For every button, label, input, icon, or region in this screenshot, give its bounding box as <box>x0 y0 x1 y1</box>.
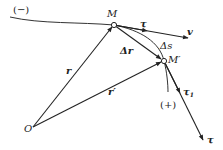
label-tau-end: τ <box>207 134 214 145</box>
vector-r <box>33 27 112 127</box>
label-delta-r: Δr <box>119 45 134 56</box>
diagram-svg: (−) (+) M M′ O r r′ Δr Δs τ v τ1 τ <box>0 0 223 150</box>
label-v: v <box>187 26 193 37</box>
label-r-prime: r′ <box>108 86 116 97</box>
point-m-prime <box>161 58 166 63</box>
label-negative-direction: (−) <box>13 4 29 15</box>
vector-tau1 <box>164 61 179 91</box>
trajectory-diagram: (−) (+) M M′ O r r′ Δr Δs τ v τ1 τ <box>0 0 223 150</box>
label-r: r <box>66 65 72 76</box>
label-delta-s: Δs <box>159 40 172 51</box>
vector-r-prime <box>33 62 161 127</box>
label-positive-direction: (+) <box>160 99 176 110</box>
label-tau1: τ1 <box>183 86 194 98</box>
label-point-m-prime: M′ <box>167 54 181 65</box>
label-point-m: M <box>106 8 118 19</box>
point-m <box>111 22 116 27</box>
label-tau: τ <box>140 18 147 29</box>
label-origin-o: O <box>24 123 32 134</box>
